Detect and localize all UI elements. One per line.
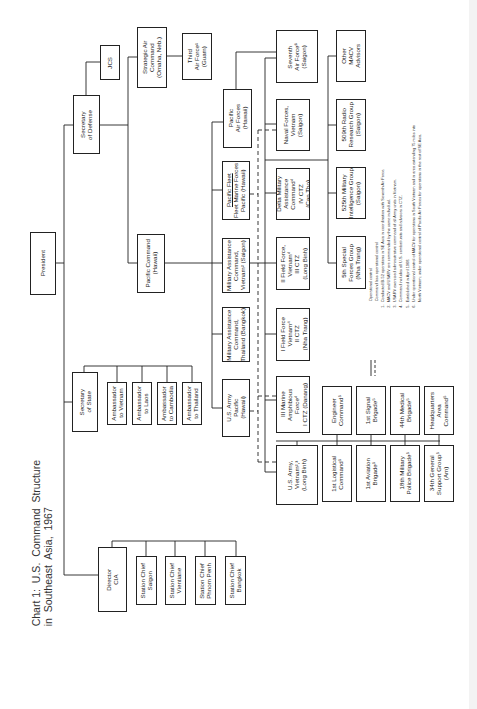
box-ambassador-laos: Ambassador to Laos xyxy=(132,382,152,425)
box-engineer-command: Engineer Command⁵ xyxy=(322,386,352,435)
box-label: Secretary of State xyxy=(78,389,92,415)
box-label: Secretary of Defense xyxy=(79,110,93,140)
box-label: 1st Signal Brigade⁵ xyxy=(364,397,378,424)
box-president: President xyxy=(30,232,56,295)
box-seventh-air-force: Seventh Air Force⁶ (Saigon) xyxy=(276,30,318,83)
box-label: Director CIA xyxy=(105,569,119,591)
box-macv: Military Assistance Command, Vietnam² (S… xyxy=(222,238,250,293)
box-label: Strategic Air Command (Omaha, Neb.) xyxy=(141,37,163,78)
box-label: Military Assistance Command, Vietnam² (S… xyxy=(225,240,247,291)
box-i-field-force: I Field Force Vietnam⁴ II CTZ (Nha Trang… xyxy=(276,308,310,361)
box-iii-maf: III Marine Amphibious Force⁴ I CTZ (Dana… xyxy=(276,376,310,433)
box-ambassador-vietnam: Ambassador to Vietnam xyxy=(107,382,127,425)
box-naval-forces-vietnam: Naval Forces, Vietnam (Saigon) xyxy=(276,99,310,151)
chart-title: Chart 1: U.S. Command Structure in South… xyxy=(30,460,54,626)
box-label: Ambassador to Laos xyxy=(135,386,149,421)
box-label: III Marine Amphibious Force⁴ I CTZ (Dana… xyxy=(279,383,308,426)
box-label: Station Chief Phnom Penh xyxy=(198,563,212,599)
box-us-army-pacific: U.S. Army Pacific (Hawaii) xyxy=(222,379,250,437)
box-label: 525th Military Intelligence Group (Saigo… xyxy=(340,168,362,218)
box-pacific-fleet: Pacific Fleet Fleet Marine Forces Pacifi… xyxy=(222,161,250,220)
box-label: 1st Logistical Command⁵ xyxy=(330,456,344,492)
box-third-air-force: Third Air Force¹ (Guam) xyxy=(182,33,212,80)
box-label: Pacific Command (Hawaii) xyxy=(144,239,158,288)
box-label: Delta Military Assistance Command⁴ IV CT… xyxy=(276,176,310,212)
box-label: Headquarters Area Command⁵ xyxy=(428,392,450,430)
legend-dashed-label: Command less operational control xyxy=(374,242,379,301)
command-structure-chart: Chart 1: U.S. Command Structure in South… xyxy=(0,0,477,709)
box-secretary-of-state: Secretary of State xyxy=(72,372,98,432)
legend-solid-label: Operational control xyxy=(368,268,373,301)
box-18th-mp-brigade: 18th Military Police Brigade⁵ xyxy=(390,445,420,502)
box-secretary-of-defense: Secretary of Defense xyxy=(73,95,100,154)
legend-note-2: 2. MACV and USARV are commanded by the s… xyxy=(386,199,391,308)
legend-note-6: 6. Under operational control of MACV for… xyxy=(411,125,422,308)
box-44th-medical-brigade: 44th Medical Brigade⁵ xyxy=(390,386,420,435)
box-label: Station Chief Bangkok xyxy=(228,563,242,598)
box-pacific-air-forces: Pacific Air Forces (Hawaii) xyxy=(223,89,252,148)
box-label: 1st Aviation Brigade⁵ xyxy=(364,458,378,490)
box-strategic-air-command: Strategic Air Command (Omaha, Neb.) xyxy=(137,27,167,88)
box-label: Ambassador to Cambodia xyxy=(160,386,174,421)
box-label: 18th Military Police Brigade⁵ xyxy=(398,452,412,494)
box-label: Pacific Fleet Fleet Marine Forces Pacifi… xyxy=(225,163,247,218)
box-label: Station Chief Vientiane xyxy=(168,563,182,598)
box-delta-mac: Delta Military Assistance Command⁴ IV CT… xyxy=(276,168,310,220)
box-hq-area-command: Headquarters Area Command⁵ xyxy=(424,386,454,435)
box-label: Third Air Force¹ (Guam) xyxy=(186,43,208,70)
box-1st-signal-brigade: 1st Signal Brigade⁵ xyxy=(356,386,386,435)
box-director-cia: Director CIA xyxy=(98,547,127,612)
box-label: I Field Force Vietnam⁴ II CTZ (Nha Trang… xyxy=(279,317,308,351)
box-label: Military Assistance Command, Thailand (B… xyxy=(225,308,247,362)
box-1st-aviation-brigade: 1st Aviation Brigade⁵ xyxy=(356,445,386,502)
box-label: President xyxy=(39,250,46,276)
box-ambassador-thailand: Ambassador to Thailand xyxy=(182,382,202,425)
box-station-chief-bangkok: Station Chief Bangkok xyxy=(225,556,246,605)
box-mac-thailand: Military Assistance Command, Thailand (B… xyxy=(222,307,250,362)
box-label: Ambassador to Thailand xyxy=(185,386,199,421)
box-label: Pacific Air Forces (Hawaii) xyxy=(227,104,249,132)
legend-note-4: 4. Command includes all U.S. combat unit… xyxy=(398,195,403,307)
box-label: 44th Medical Brigade⁵ xyxy=(398,393,412,428)
legend-note-3: 3. USARV exercised administrative comman… xyxy=(392,179,397,308)
box-station-chief-saigon: Station Chief Saigon xyxy=(136,556,157,605)
legend: Operational control Command less operati… xyxy=(368,125,423,308)
box-label: Station Chief Saigon xyxy=(139,563,153,598)
box-label: Ambassador to Vietnam xyxy=(110,386,124,421)
pacific-fleet-title: Pacific Fleet xyxy=(225,174,232,208)
box-label: II Field Force, Vietnam⁴ III CTZ (Long B… xyxy=(279,245,308,283)
box-label: JCS xyxy=(106,57,113,69)
box-other-macv-advisors: Other MACV Advisors xyxy=(336,30,366,82)
box-ambassador-cambodia: Ambassador to Cambodia xyxy=(157,382,177,425)
box-5th-special-forces-group: 5th Special Forces Group (Nha Trang) xyxy=(336,236,366,289)
box-label: 509th Radio Research Group (Saigon) xyxy=(340,102,362,147)
pacific-fleet-subtitle: Fleet Marine Forces Pacific (Hawaii) xyxy=(232,163,246,218)
legend-note-5: 5. Established in April 1968. xyxy=(405,259,410,308)
box-station-chief-vientiane: Station Chief Vientiane xyxy=(165,556,186,605)
box-pacific-command: Pacific Command (Hawaii) xyxy=(137,234,165,293)
box-usarv: U.S. Army, Vietnam²,³ (Long Binh) xyxy=(276,445,318,505)
box-label: Other MACV Advisors xyxy=(340,44,362,68)
box-label: 5th Special Forces Group (Nha Trang) xyxy=(340,244,362,282)
box-label: Engineer Command⁵ xyxy=(330,395,344,426)
box-509th-radio-research-group: 509th Radio Research Group (Saigon) xyxy=(336,99,366,151)
legend-note-1: 1. Conducted B-52 operations in SE Asia … xyxy=(380,169,385,308)
box-label: U.S. Army Pacific (Hawaii) xyxy=(225,394,247,422)
legend-spacer xyxy=(368,301,373,308)
box-jcs: JCS xyxy=(100,45,120,80)
box-station-chief-phnom-penh: Station Chief Phnom Penh xyxy=(195,556,216,605)
box-label: Naval Forces, Vietnam (Saigon) xyxy=(282,106,304,144)
legend-spacer xyxy=(374,301,379,308)
box-525th-mi-group: 525th Military Intelligence Group (Saigo… xyxy=(336,167,366,219)
page-edge-shade xyxy=(469,0,477,709)
box-34th-general-support-group: 34th General Support Group⁵ (Am) xyxy=(424,445,454,502)
box-label: 34th General Support Group⁵ (Am) xyxy=(428,452,450,495)
box-label: Seventh Air Force⁶ (Saigon) xyxy=(286,43,308,71)
box-1st-logistical-command: 1st Logistical Command⁵ xyxy=(322,445,352,502)
box-ii-field-force: II Field Force, Vietnam⁴ III CTZ (Long B… xyxy=(276,237,310,290)
box-label: U.S. Army, Vietnam²,³ (Long Binh) xyxy=(286,459,308,491)
